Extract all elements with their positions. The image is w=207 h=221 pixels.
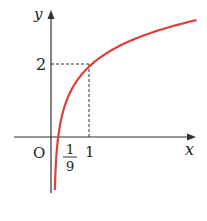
x-tick-ninth-numerator: 1 [66,142,74,157]
x-tick-ninth-denominator: 9 [66,159,74,174]
log-graph: y x O 2 1 1 9 [0,0,207,221]
y-axis-label: y [33,5,43,23]
x-axis-label: x [185,140,194,159]
y-tick-2: 2 [36,55,46,74]
y-axis-arrow-icon [48,10,55,19]
x-tick-1: 1 [85,143,95,161]
origin-label: O [33,144,45,162]
log-curve [55,20,197,190]
